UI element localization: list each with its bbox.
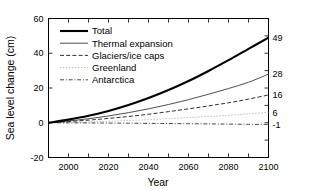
end-label-glaciers-ice-caps: 16 [273,90,283,100]
x-axis-title: Year [147,176,169,188]
y-tick-label: 20 [33,83,43,93]
y-axis-tick-labels: -200204060 [30,14,43,163]
x-tick-label: 2080 [218,162,238,172]
end-label-antarctica: -1 [273,120,281,130]
x-tick-label: 2060 [178,162,198,172]
end-label-greenland: 6 [273,108,278,118]
legend: TotalThermal expansionGlaciers/ice capsG… [60,25,173,85]
y-tick-label: 60 [33,14,43,24]
x-tick-label: 2000 [58,162,78,172]
y-tick-label: -20 [30,153,43,163]
series-line-antarctica [49,123,269,125]
y-axis-title: Sea level change (cm) [4,36,16,140]
legend-label-glaciers-ice-caps: Glaciers/ice caps [92,50,165,61]
y-tick-label: 0 [38,118,43,128]
right-axis-end-labels: 4928166-1 [273,33,283,130]
x-tick-label: 2040 [138,162,158,172]
series-line-thermal-expansion [49,74,269,123]
legend-label-antarctica: Antarctica [92,74,135,85]
end-label-total: 49 [273,33,283,43]
y-tick-label: 40 [33,48,43,58]
sea-level-chart-figure: -200204060 200020202040206020802100 4928… [0,0,316,191]
x-tick-label: 2020 [98,162,118,172]
legend-label-greenland: Greenland [92,62,136,73]
series-line-glaciers-ice-caps [49,95,269,123]
legend-label-thermal-expansion: Thermal expansion [92,38,173,49]
end-label-thermal-expansion: 28 [273,69,283,79]
x-axis-tick-labels: 200020202040206020802100 [58,162,278,172]
chart-canvas: -200204060 200020202040206020802100 4928… [0,0,316,191]
x-tick-label: 2100 [258,162,278,172]
legend-label-total: Total [92,25,112,36]
